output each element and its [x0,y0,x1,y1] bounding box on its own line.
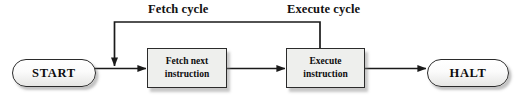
fetch-box-label-line2: instruction [165,69,209,79]
fetch-cycle-label: Fetch cycle [148,2,208,17]
start-terminator-label: START [32,66,76,81]
fetch-box-label-line1: Fetch next [166,56,208,66]
execute-box-label: Execute instruction [303,55,347,80]
start-terminator: START [12,59,96,87]
execute-box-label-line2: instruction [303,69,347,79]
execute-instruction-box: Execute instruction [286,48,365,88]
instruction-cycle-diagram: Fetch cycle Execute cycle START HALT Fet… [0,0,519,107]
fetch-box-label: Fetch next instruction [165,55,209,80]
execute-cycle-label: Execute cycle [287,2,360,17]
execute-box-label-line1: Execute [309,56,341,66]
fetch-next-instruction-box: Fetch next instruction [147,48,227,88]
halt-terminator: HALT [427,59,509,87]
halt-terminator-label: HALT [449,66,486,81]
diagram-connectors [0,0,519,107]
